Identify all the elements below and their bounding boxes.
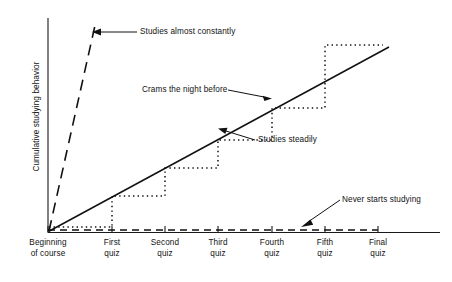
x-tick-label-line2: quiz xyxy=(348,248,408,259)
x-tick-label-line1: Second xyxy=(135,237,195,248)
x-tick-label-fourth-quiz: Fourth quiz xyxy=(242,237,302,259)
x-tick-label-line2: quiz xyxy=(82,248,142,259)
x-tick-label-third-quiz: Third quiz xyxy=(188,237,248,259)
x-tick-label-line2: quiz xyxy=(135,248,195,259)
x-tick-label-fifth-quiz: Fifth quiz xyxy=(295,237,355,259)
x-tick-label-line1: Beginning xyxy=(8,237,88,248)
annotation-studies-almost-constantly: Studies almost constantly xyxy=(140,27,235,36)
series-studies-almost-constantly xyxy=(49,21,96,231)
x-tick-label-line2: quiz xyxy=(188,248,248,259)
x-tick-label-line1: Third xyxy=(188,237,248,248)
annotation-never-starts-studying: Never starts studying xyxy=(342,195,421,204)
x-tick-label-line1: First xyxy=(82,237,142,248)
x-tick-label-first-quiz: First quiz xyxy=(82,237,142,259)
x-tick-label-line1: Fourth xyxy=(242,237,302,248)
x-tick-label-line1: Final xyxy=(348,237,408,248)
annotation-leader-crams-the-night-before xyxy=(228,90,272,101)
x-tick-label-final-quiz: Final quiz xyxy=(348,237,408,259)
chart-figure: Cumulative studying behavior Beginning o… xyxy=(0,0,452,282)
annotation-leader-studies-almost-constantly xyxy=(92,29,137,36)
x-tick-label-line2: of course xyxy=(8,248,88,259)
y-axis-label: Cumulative studying behavior xyxy=(32,37,41,197)
annotation-crams-the-night-before: Crams the night before xyxy=(142,85,227,94)
annotation-leader-never-starts-studying xyxy=(301,200,340,227)
x-tick-label-beginning-of-course: Beginning of course xyxy=(8,237,88,259)
x-tick-label-line1: Fifth xyxy=(295,237,355,248)
series-studies-steadily xyxy=(49,47,390,232)
x-tick-label-line2: quiz xyxy=(242,248,302,259)
x-tick-label-second-quiz: Second quiz xyxy=(135,237,195,259)
annotation-studies-steadily: Studies steadily xyxy=(258,135,317,144)
series-crams-the-night-before xyxy=(49,45,383,227)
x-tick-label-line2: quiz xyxy=(295,248,355,259)
